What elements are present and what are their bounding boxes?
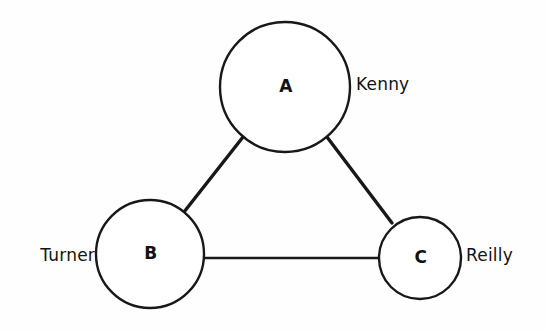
node-letter-c: C	[415, 247, 428, 267]
node-label-turner: Turner	[39, 245, 95, 265]
edge-a-c	[327, 137, 392, 223]
node-letter-b: B	[144, 243, 157, 263]
node-label-kenny: Kenny	[356, 74, 409, 94]
edge-a-b	[184, 137, 243, 212]
diagram-canvas: A Kenny B Turner C Reilly	[0, 0, 548, 331]
node-letter-a: A	[279, 76, 293, 96]
node-label-reilly: Reilly	[466, 245, 513, 265]
graph-svg: A Kenny B Turner C Reilly	[0, 0, 548, 331]
